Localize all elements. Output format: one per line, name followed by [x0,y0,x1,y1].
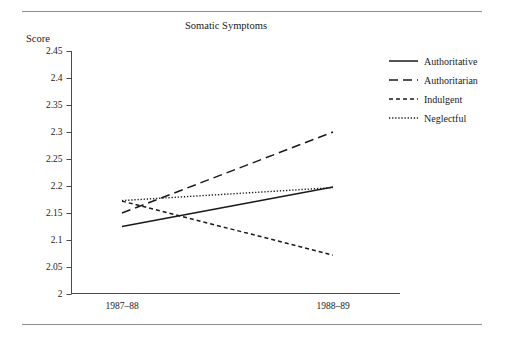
line-chart: Score Somatic Symptoms 22.052.12.152.22.… [0,0,505,338]
y-tick-label: 2.15 [46,208,63,218]
series-line-indulgent [122,201,333,255]
series-line-neglectful [122,188,333,201]
y-tick-label: 2.3 [51,127,63,137]
legend: AuthoritativeAuthoritarianIndulgentNegle… [389,56,478,124]
series-line-authoritarian [122,132,333,213]
x-axis-category-labels: 1987–881988–89 [105,301,350,311]
y-tick-label: 2.25 [46,154,63,164]
series-line-authoritative [122,187,333,226]
legend-label-neglectful: Neglectful [424,113,466,124]
series-group [122,132,333,255]
y-tick-label: 2.05 [46,262,63,272]
figure-container: Score Somatic Symptoms 22.052.12.152.22.… [0,0,505,338]
chart-title: Somatic Symptoms [185,20,267,31]
x-category-label: 1988–89 [316,301,350,311]
y-axis-title: Score [26,33,50,44]
y-tick-label: 2 [58,289,63,299]
y-tick-label: 2.35 [46,100,63,110]
y-axis-ticks: 22.052.12.152.22.252.32.352.42.45 [46,46,72,299]
y-tick-label: 2.1 [51,235,63,245]
y-tick-label: 2.4 [51,73,63,83]
y-tick-label: 2.2 [51,181,63,191]
legend-label-authoritarian: Authoritarian [424,75,478,86]
chart-svg: Score Somatic Symptoms 22.052.12.152.22.… [0,0,505,338]
x-category-label: 1987–88 [105,301,139,311]
legend-label-indulgent: Indulgent [424,94,463,105]
y-tick-label: 2.45 [46,46,63,56]
legend-label-authoritative: Authoritative [424,56,478,67]
